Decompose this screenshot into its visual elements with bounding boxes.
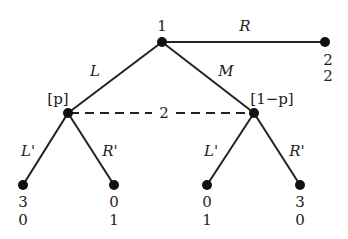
payoff-ml-1: 0 (202, 195, 212, 210)
action-l-prime-left: L' (21, 144, 35, 159)
payoff-ll-2: 0 (18, 213, 28, 228)
payoff-mr-1: 3 (295, 195, 305, 210)
left-node (63, 108, 73, 118)
action-r-prime-left: R' (102, 144, 117, 159)
belief-1-minus-p-label: [1−p] (250, 92, 293, 107)
payoff-lr-2: 1 (109, 213, 119, 228)
action-m-label: M (218, 64, 233, 79)
action-r-prime-right: R' (289, 144, 304, 159)
payoff-ml-2: 1 (202, 213, 212, 228)
action-l-prime-right: L' (204, 144, 218, 159)
terminal-r-node (320, 37, 330, 47)
payoff-r-2: 2 (323, 69, 333, 84)
player-1-label: 1 (157, 19, 167, 34)
payoff-r-1: 2 (323, 53, 333, 68)
payoff-mr-2: 0 (295, 213, 305, 228)
action-r-label: R (239, 19, 250, 34)
right-node (249, 108, 259, 118)
payoff-lr-1: 0 (109, 195, 119, 210)
belief-p-label: [p] (47, 92, 68, 107)
action-l-label: L (90, 64, 100, 79)
payoff-ll-1: 3 (18, 195, 28, 210)
root-node (157, 37, 167, 47)
player-2-label: 2 (159, 106, 169, 121)
